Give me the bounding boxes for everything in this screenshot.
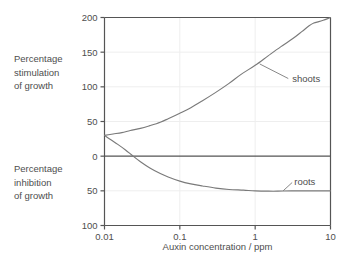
y-tick-label: 0 — [92, 151, 97, 162]
y-tick-label: 150 — [82, 47, 98, 58]
chart-background — [0, 0, 350, 268]
side-label-line: of growth — [14, 80, 53, 91]
side-label-line: inhibition — [14, 177, 52, 188]
y-tick-label: 100 — [82, 81, 98, 92]
y-tick-label: 100 — [82, 220, 98, 231]
x-tick-label: 1 — [253, 231, 258, 242]
x-tick-label: 10 — [325, 231, 336, 242]
side-label-line: Percentage — [14, 53, 63, 64]
x-tick-label: 0.1 — [173, 231, 186, 242]
auxin-response-chart: 20015010050050100 0.010.1110 shootsroots… — [0, 0, 350, 268]
series-label-shoots: shoots — [292, 73, 320, 84]
y-tick-label: 200 — [82, 12, 98, 23]
series-label-roots: roots — [294, 176, 315, 187]
side-label-line: Percentage — [14, 163, 63, 174]
x-axis-title: Auxin concentration / ppm — [163, 241, 273, 252]
x-tick-label: 0.01 — [95, 231, 114, 242]
y-tick-label: 50 — [87, 185, 98, 196]
side-label-line: stimulation — [14, 67, 59, 78]
y-tick-label: 50 — [87, 116, 98, 127]
side-label-line: of growth — [14, 190, 53, 201]
chart-figure: 20015010050050100 0.010.1110 shootsroots… — [0, 0, 350, 268]
